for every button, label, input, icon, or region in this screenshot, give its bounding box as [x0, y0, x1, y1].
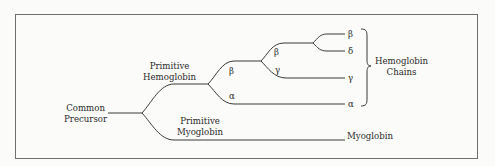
label-line: Primitive [177, 116, 223, 127]
myoglobin-branch [142, 113, 345, 140]
label-line: Hemoglobin [375, 56, 428, 67]
branch-label-gamma-1: γ [275, 65, 280, 75]
label-hemoglobin-chains: Hemoglobin Chains [375, 56, 428, 77]
leaf-alpha: α [348, 99, 354, 109]
label-primitive-myoglobin: Primitive Myoglobin [177, 116, 223, 137]
label-primitive-hemoglobin: Primitive Hemoglobin [143, 61, 196, 82]
hemoglobin-chains-brace [361, 29, 371, 106]
beta-leaf-branch [313, 34, 345, 43]
branch-label-beta-2: β [274, 47, 279, 57]
tree-lines [0, 0, 495, 166]
beta-delta-branch [261, 43, 313, 61]
leaf-delta: δ [348, 46, 353, 56]
delta-leaf-branch [313, 43, 345, 51]
label-line: Chains [375, 67, 428, 78]
label-line: Primitive [143, 61, 196, 72]
beta-branch [208, 61, 261, 84]
branch-label-alpha-1: α [229, 91, 235, 101]
label-common-precursor: Common Precursor [64, 103, 107, 124]
label-line: Precursor [64, 114, 107, 125]
label-line: Myoglobin [177, 127, 223, 138]
label-line: Hemoglobin [143, 72, 196, 83]
label-line: Common [64, 103, 107, 114]
gamma-branch [261, 61, 345, 78]
label-myoglobin: Myoglobin [347, 131, 393, 142]
hemoglobin-branch [142, 84, 208, 113]
leaf-gamma: γ [348, 73, 353, 83]
leaf-beta: β [348, 29, 353, 39]
branch-label-beta-1: β [229, 66, 234, 76]
